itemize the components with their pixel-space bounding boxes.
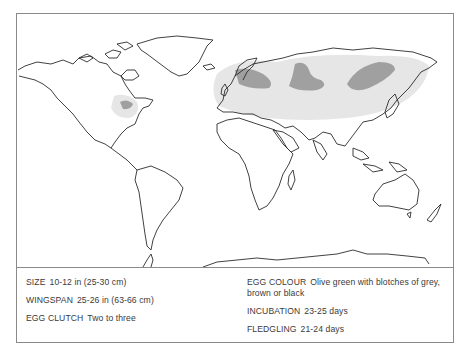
- fact-fledgling: FLEDGLING21-24 days: [247, 324, 447, 335]
- fact-label: EGG COLOUR: [247, 277, 306, 287]
- fact-value: 25-26 in (63-66 cm): [77, 295, 154, 305]
- fact-label: SIZE: [26, 277, 46, 287]
- fact-label: INCUBATION: [247, 306, 300, 316]
- world-map-svg: [17, 14, 453, 267]
- fact-value: 23-25 days: [304, 306, 348, 316]
- world-range-map: [17, 14, 453, 267]
- fact-label: EGG CLUTCH: [26, 313, 83, 323]
- fact-value: 21-24 days: [301, 324, 345, 334]
- fact-value: Two to three: [87, 313, 136, 323]
- facts-right-column: EGG COLOUROlive green with blotches of g…: [247, 277, 447, 342]
- species-info-panel: SIZE10-12 in (25-30 cm) WINGSPAN25-26 in…: [16, 13, 454, 343]
- fact-label: FLEDGLING: [247, 324, 297, 334]
- fact-egg-clutch: EGG CLUTCHTwo to three: [26, 313, 236, 324]
- fact-egg-colour: EGG COLOUROlive green with blotches of g…: [247, 277, 447, 299]
- facts-left-column: SIZE10-12 in (25-30 cm) WINGSPAN25-26 in…: [26, 277, 236, 331]
- species-facts: SIZE10-12 in (25-30 cm) WINGSPAN25-26 in…: [17, 268, 453, 342]
- fact-label: WINGSPAN: [26, 295, 73, 305]
- fact-value: 10-12 in (25-30 cm): [50, 277, 127, 287]
- fact-size: SIZE10-12 in (25-30 cm): [26, 277, 236, 288]
- fact-wingspan: WINGSPAN25-26 in (63-66 cm): [26, 295, 236, 306]
- fact-incubation: INCUBATION23-25 days: [247, 306, 447, 317]
